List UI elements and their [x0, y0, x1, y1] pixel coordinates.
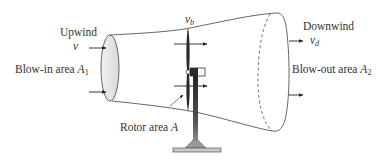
tower	[193, 74, 198, 144]
rotor-area-text: Rotor area	[120, 121, 171, 133]
blow-in-area-subscript: 1	[85, 68, 89, 77]
upwind-label: Upwind	[60, 27, 97, 39]
rotor-area-symbol: A	[171, 121, 178, 133]
stream-tube-top-boundary	[110, 13, 287, 35]
rotor-area-label: Rotor area A	[120, 122, 178, 134]
rotor-area-leader-line	[170, 95, 183, 106]
rotor-blade-bottom	[186, 74, 189, 112]
blow-in-area-text: Blow-in area	[15, 63, 78, 75]
blow-in-area-ellipse	[101, 35, 119, 101]
blow-out-area-dashed-edge	[258, 14, 272, 131]
blow-out-area-subscript: 2	[367, 68, 371, 77]
rotor-speed-label: vb	[185, 14, 194, 27]
downwind-label: Downwind	[303, 21, 354, 33]
blow-in-area-symbol: A	[78, 63, 85, 75]
upwind-speed-label: v	[73, 41, 78, 53]
downwind-speed-subscript: d	[315, 39, 319, 48]
rotor-blade-top	[186, 27, 189, 70]
blow-out-area-text: Blow-out area	[292, 63, 360, 75]
blow-out-area-label: Blow-out area A2	[292, 64, 371, 77]
tower-base-flare	[185, 140, 206, 148]
downwind-speed-label: vd	[310, 35, 319, 48]
nacelle-front	[190, 68, 198, 76]
tower-base-plate	[173, 148, 221, 152]
rotor-speed-subscript: b	[190, 18, 194, 27]
blow-in-area-label: Blow-in area A1	[15, 64, 89, 77]
stream-tube-right-boundary	[272, 34, 289, 131]
rotor-hub	[186, 70, 190, 74]
